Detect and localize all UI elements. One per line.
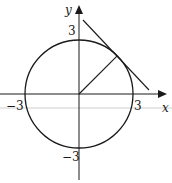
y-axis-label: y [64,3,72,17]
tick-label-x-neg: −3 [6,99,24,113]
tick-label-x-pos: 3 [134,99,142,113]
radius-segment [79,56,117,94]
circle-tangent-diagram: y x 3 −3 3 −3 [0,0,172,183]
tick-label-y-neg: −3 [62,150,80,164]
y-axis-arrow-icon [75,5,83,14]
x-axis-label: x [162,101,169,115]
x-axis-arrow-icon [158,90,167,98]
tick-label-y-pos: 3 [68,24,76,38]
